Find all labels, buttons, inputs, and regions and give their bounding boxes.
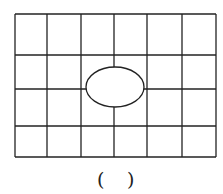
grid-figure	[0, 0, 223, 194]
answer-open-paren: (	[97, 170, 104, 189]
center-ellipse	[86, 67, 144, 107]
answer-close-paren: )	[127, 170, 134, 189]
